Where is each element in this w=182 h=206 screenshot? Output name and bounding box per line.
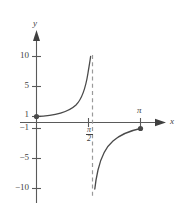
plot-canvas xyxy=(0,0,182,206)
y-tick-label-10: 10 xyxy=(12,51,29,60)
endpoint-dot-origin xyxy=(34,114,39,119)
y-tick-label-minus-5: −5 xyxy=(8,153,29,162)
x-tick-label-pi: π xyxy=(137,106,142,115)
pi-over-2-denominator: 2 xyxy=(84,135,94,143)
y-axis-arrowhead xyxy=(33,30,40,41)
curve-branch-left xyxy=(37,57,91,117)
x-axis-arrowhead xyxy=(155,119,166,126)
x-axis-label: x xyxy=(170,117,174,126)
y-tick-label-minus-1: −1 xyxy=(8,123,29,132)
x-tick-label-pi-over-2: π 2 xyxy=(84,126,94,143)
y-tick-label-minus-10: −10 xyxy=(4,183,29,192)
y-tick-label-5: 5 xyxy=(12,81,29,90)
curve-branch-right xyxy=(95,129,141,190)
y-axis-label: y xyxy=(33,19,37,28)
graph-figure: 10 5 1 −1 −5 −10 y x π π 2 xyxy=(0,0,182,206)
endpoint-dot-pi xyxy=(138,126,143,131)
y-tick-label-1: 1 xyxy=(12,110,29,119)
pi-over-2-numerator: π xyxy=(84,126,94,134)
